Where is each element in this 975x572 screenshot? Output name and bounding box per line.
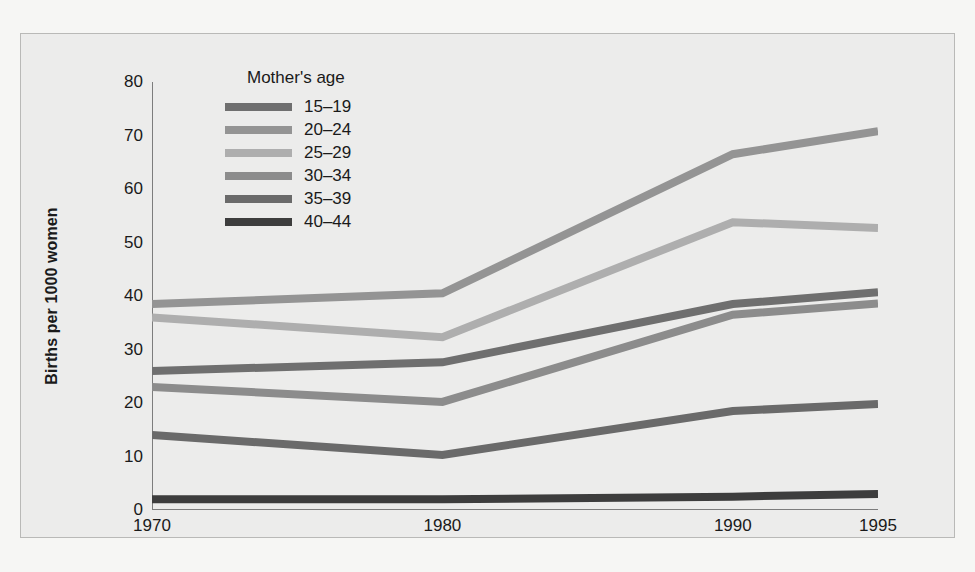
y-tick-label: 40 [124,286,143,306]
series-line [152,222,878,337]
legend-item-label: 15–19 [304,97,351,117]
legend-item: 25–29 [225,141,390,164]
x-tick-label: 1995 [859,516,897,536]
legend-color-swatch [225,126,292,134]
figure-root: Births per 1000 women 01020304050607080 … [0,0,975,572]
legend-color-swatch [225,149,292,157]
y-axis-tick-labels: 01020304050607080 [95,82,143,510]
series-line [152,494,878,499]
legend-item-label: 25–29 [304,143,351,163]
x-tick-label: 1970 [133,516,171,536]
y-axis-title-container: Births per 1000 women [78,82,79,510]
legend-item-label: 40–44 [304,212,351,232]
legend-item: 15–19 [225,95,390,118]
y-tick-label: 60 [124,179,143,199]
legend-item: 40–44 [225,210,390,233]
legend-color-swatch [225,103,292,111]
y-axis-title: Births per 1000 women [43,207,61,384]
legend-item: 35–39 [225,187,390,210]
legend-rows: 15–1920–2425–2930–3435–3940–44 [225,95,390,233]
series-line [152,404,878,455]
legend-color-swatch [225,218,292,226]
y-tick-label: 20 [124,393,143,413]
y-tick-label: 10 [124,447,143,467]
series-line [152,303,878,401]
y-tick-label: 50 [124,233,143,253]
y-tick-label: 80 [124,72,143,92]
legend-item-label: 35–39 [304,189,351,209]
legend-item-label: 20–24 [304,120,351,140]
legend-item: 20–24 [225,118,390,141]
legend-title: Mother's age [247,68,390,88]
x-tick-label: 1990 [714,516,752,536]
legend-color-swatch [225,172,292,180]
y-tick-label: 70 [124,126,143,146]
legend-item-label: 30–34 [304,166,351,186]
y-tick-label: 30 [124,340,143,360]
x-axis-tick-labels: 1970198019901995 [152,516,878,542]
legend-color-swatch [225,195,292,203]
series-line [152,292,878,371]
legend: Mother's age 15–1920–2425–2930–3435–3940… [225,68,390,233]
x-tick-label: 1980 [423,516,461,536]
legend-item: 30–34 [225,164,390,187]
